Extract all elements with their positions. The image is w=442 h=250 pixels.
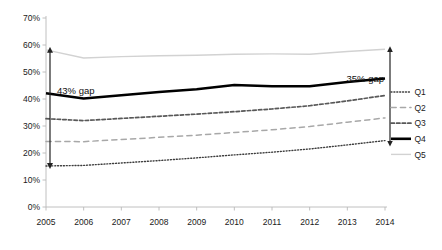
x-axis-tick-label: 2011: [263, 217, 282, 227]
x-axis-tick-label: 2007: [112, 217, 131, 227]
y-axis-tick-label: 70%: [23, 13, 40, 23]
y-axis-tick-label: 60%: [23, 40, 40, 50]
y-axis-tick-label: 40%: [23, 94, 40, 104]
y-axis-tick-label: 50%: [23, 67, 40, 77]
y-axis-tick-label: 30%: [23, 121, 40, 131]
series-line-q3: [46, 95, 385, 120]
series-line-q4: [46, 78, 385, 98]
line-chart: 0%10%20%30%40%50%60%70%20052006200720082…: [0, 0, 442, 250]
series-line-q2: [46, 118, 385, 142]
gap-annotation-label-left: 43% gap: [57, 85, 95, 96]
legend-label-q2: Q2: [415, 103, 427, 113]
y-axis-tick-label: 0%: [28, 202, 41, 212]
x-axis-tick-label: 2010: [225, 217, 244, 227]
legend-label-q4: Q4: [415, 134, 427, 144]
series-line-q1: [46, 141, 385, 166]
x-axis-tick-label: 2008: [150, 217, 169, 227]
x-axis-tick-label: 2009: [187, 217, 206, 227]
x-axis-tick-label: 2006: [74, 217, 93, 227]
x-axis-tick-label: 2014: [376, 217, 395, 227]
x-axis-tick-label: 2012: [300, 217, 319, 227]
y-axis-tick-label: 10%: [23, 175, 40, 185]
y-axis-tick-label: 20%: [23, 148, 40, 158]
series-line-q5: [46, 49, 385, 58]
chart-container: 0%10%20%30%40%50%60%70%20052006200720082…: [0, 0, 442, 250]
legend-label-q1: Q1: [415, 87, 427, 97]
x-axis-tick-label: 2013: [338, 217, 357, 227]
legend-label-q3: Q3: [415, 118, 427, 128]
gap-annotation-label-right: 35% gap: [346, 73, 384, 84]
legend-label-q5: Q5: [415, 150, 427, 160]
x-axis-tick-label: 2005: [37, 217, 56, 227]
